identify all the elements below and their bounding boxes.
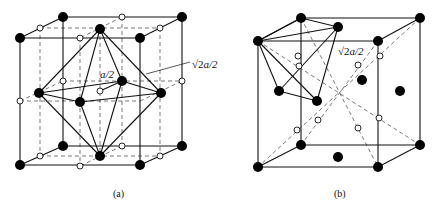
label-a-half: a/2 — [100, 68, 115, 80]
panel-b-sites — [294, 53, 383, 133]
panel-a: a/2 √2a/2 (a) — [15, 12, 218, 200]
label-sqrt2-a: √2a/2 — [192, 58, 218, 70]
sqrt-rest: a/2 — [204, 58, 219, 70]
sqrt-rest-b: a/2 — [350, 45, 365, 57]
label-b-sqrt2-a: √2a/2 — [338, 45, 364, 57]
panel-a-octahedron — [39, 29, 190, 156]
panel-b: √2a/2 (b) — [253, 13, 425, 200]
sqrt-symbol: √2 — [192, 58, 204, 70]
caption-a: (a) — [113, 188, 124, 200]
sqrt-symbol-b: √2 — [338, 45, 350, 57]
crystal-diagram: a/2 √2a/2 (a) — [0, 0, 439, 208]
panel-b-tetrahedron — [258, 18, 338, 101]
caption-b: (b) — [334, 188, 346, 200]
